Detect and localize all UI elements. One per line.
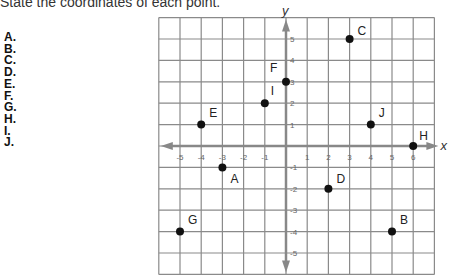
point-c-label: C bbox=[358, 24, 367, 38]
x-tick-label: 4 bbox=[369, 153, 374, 162]
point-d-label: D bbox=[336, 172, 345, 186]
point-i-label: I bbox=[271, 84, 274, 98]
point-g-label: G bbox=[188, 213, 197, 227]
point-d-dot bbox=[324, 185, 332, 193]
y-tick-label: -4 bbox=[290, 228, 298, 237]
point-i-dot bbox=[261, 99, 269, 107]
x-axis-left-arrow-icon bbox=[161, 142, 173, 150]
point-c-dot bbox=[346, 35, 354, 43]
y-tick-label: -5 bbox=[290, 249, 298, 258]
point-f-dot bbox=[282, 78, 290, 86]
x-axis-right-arrow-icon bbox=[426, 142, 438, 150]
point-b-label: B bbox=[400, 213, 408, 227]
y-axis-label: y bbox=[281, 3, 290, 18]
y-tick-label: 3 bbox=[290, 78, 295, 87]
x-tick-label: 3 bbox=[347, 153, 352, 162]
y-axis-down-arrow-icon bbox=[282, 260, 290, 272]
y-tick-label: 4 bbox=[290, 56, 295, 65]
point-j-label: J bbox=[379, 106, 385, 120]
point-h-dot bbox=[409, 142, 417, 150]
point-e-label: E bbox=[209, 106, 217, 120]
x-tick-label: -1 bbox=[261, 153, 269, 162]
x-tick-label: 2 bbox=[326, 153, 331, 162]
x-tick-label: 6 bbox=[411, 153, 416, 162]
y-axis-up-arrow-icon bbox=[282, 20, 290, 32]
point-j-dot bbox=[367, 121, 375, 129]
point-g-dot bbox=[176, 228, 184, 236]
point-a-dot bbox=[218, 163, 226, 171]
y-tick-label: 1 bbox=[290, 121, 295, 130]
point-f-label: F bbox=[270, 61, 277, 75]
x-tick-label: -3 bbox=[219, 153, 227, 162]
y-tick-label: -1 bbox=[290, 163, 298, 172]
y-tick-label: 5 bbox=[290, 35, 295, 44]
point-h-label: H bbox=[419, 129, 428, 143]
point-e-dot bbox=[197, 121, 205, 129]
point-a-label: A bbox=[230, 172, 238, 186]
coordinate-plane: -5-4-3-2-112345654321-1-2-3-4-5xyABCDEFG… bbox=[0, 0, 450, 276]
x-tick-label: -4 bbox=[198, 153, 206, 162]
point-b-dot bbox=[388, 228, 396, 236]
x-tick-label: -5 bbox=[176, 153, 184, 162]
x-tick-label: 1 bbox=[305, 153, 310, 162]
y-tick-label: -2 bbox=[290, 185, 298, 194]
x-tick-label: -2 bbox=[240, 153, 248, 162]
x-axis-label: x bbox=[439, 138, 447, 153]
x-tick-label: 5 bbox=[390, 153, 395, 162]
y-tick-label: -3 bbox=[290, 206, 298, 215]
y-tick-label: 2 bbox=[290, 99, 295, 108]
